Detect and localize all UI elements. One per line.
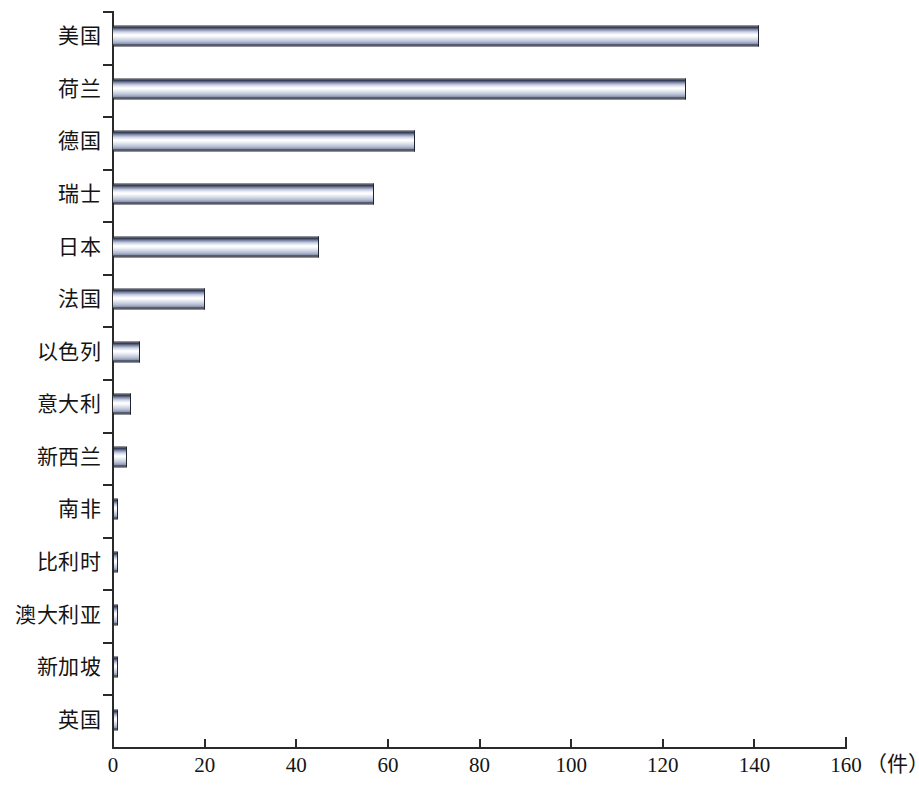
y-axis-tick	[103, 169, 113, 171]
bar	[113, 26, 759, 47]
bar-chart: 美国荷兰德国瑞士日本法国以色列意大利新西兰南非比利时澳大利亚新加坡英国 0204…	[0, 0, 919, 787]
category-label: 德国	[58, 131, 101, 152]
bar	[113, 499, 118, 520]
bar	[113, 446, 127, 467]
category-label: 日本	[58, 236, 101, 257]
x-axis-tick-label: 100	[555, 755, 587, 776]
y-axis-tick	[103, 537, 113, 539]
y-axis-tick	[103, 274, 113, 276]
x-axis-tick-label: 80	[469, 755, 490, 776]
x-axis-tick	[845, 737, 847, 748]
x-axis-tick-label: 160	[830, 755, 862, 776]
bar	[113, 341, 140, 362]
category-label: 荷兰	[58, 78, 101, 99]
category-label: 英国	[58, 709, 101, 730]
bar	[113, 184, 374, 205]
bar	[113, 78, 686, 99]
y-axis-tick	[103, 642, 113, 644]
bar	[113, 131, 415, 152]
category-label: 南非	[58, 499, 101, 520]
category-label: 美国	[58, 26, 101, 47]
bars-group	[113, 0, 919, 787]
category-label: 新加坡	[37, 657, 102, 678]
x-axis-tick-label: 140	[739, 755, 771, 776]
y-axis-tick	[103, 379, 113, 381]
y-axis-tick	[103, 589, 113, 591]
bar	[113, 394, 131, 415]
x-axis-tick-label: 40	[286, 755, 307, 776]
x-axis-tick-label: 20	[194, 755, 215, 776]
x-axis-tick	[295, 739, 297, 748]
y-axis-tick	[103, 221, 113, 223]
category-label: 以色列	[37, 341, 102, 362]
y-axis-tick	[103, 326, 113, 328]
category-label: 澳大利亚	[15, 604, 101, 625]
bar	[113, 552, 118, 573]
y-axis-tick	[103, 64, 113, 66]
y-axis-tick	[103, 116, 113, 118]
x-axis-tick	[387, 739, 389, 748]
bar	[113, 604, 118, 625]
category-label: 瑞士	[58, 184, 101, 205]
x-axis-tick	[662, 739, 664, 748]
y-axis-tick	[103, 484, 113, 486]
y-axis-tick	[103, 694, 113, 696]
category-label: 法国	[58, 289, 101, 310]
x-axis-tick-label: 120	[647, 755, 679, 776]
bar	[113, 236, 319, 257]
x-axis-unit-label: （件）	[866, 754, 919, 775]
x-axis-tick	[570, 739, 572, 748]
x-axis-tick-label: 60	[377, 755, 398, 776]
category-label: 新西兰	[37, 446, 102, 467]
x-axis-tick	[753, 739, 755, 748]
x-axis-tick-label: 0	[108, 755, 119, 776]
bar	[113, 657, 118, 678]
y-axis-tick	[103, 11, 113, 13]
category-label: 比利时	[37, 552, 102, 573]
x-axis-tick	[479, 739, 481, 748]
category-label: 意大利	[37, 394, 102, 415]
bar	[113, 709, 118, 730]
y-axis-tick	[103, 432, 113, 434]
category-axis-labels: 美国荷兰德国瑞士日本法国以色列意大利新西兰南非比利时澳大利亚新加坡英国	[0, 0, 101, 787]
x-axis-tick	[204, 739, 206, 748]
bar	[113, 289, 205, 310]
